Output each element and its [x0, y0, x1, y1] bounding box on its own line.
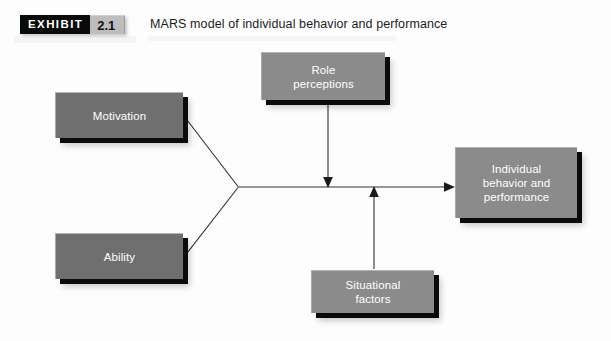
node-ability-line-1: Ability — [104, 250, 135, 264]
node-outcome-line-2: behavior and — [483, 176, 551, 190]
exhibit-label: EXHIBIT — [20, 15, 90, 34]
arrowhead-role-down — [323, 177, 333, 188]
scan-blemish — [148, 36, 396, 41]
node-motivation-line-1: Motivation — [93, 109, 146, 123]
node-situational-factors: Situational factors — [311, 270, 434, 313]
exhibit-title: MARS model of individual behavior and pe… — [150, 17, 447, 31]
exhibit-number: 2.1 — [90, 15, 125, 34]
node-individual-behavior-and-performance: Individual behavior and performance — [455, 147, 577, 218]
node-role-line-1: Role — [293, 63, 354, 77]
edge-ability-to-junction — [184, 188, 238, 258]
arrowhead-into-outcome — [444, 182, 455, 192]
exhibit-figure: EXHIBIT 2.1 MARS model of individual beh… — [0, 0, 611, 341]
node-motivation: Motivation — [55, 92, 183, 138]
node-outcome-line-3: performance — [483, 190, 551, 204]
edge-motivation-to-junction — [184, 116, 238, 187]
exhibit-tag: EXHIBIT 2.1 — [20, 15, 125, 34]
scan-blemish — [14, 36, 136, 43]
node-situational-line-1: Situational — [346, 278, 401, 292]
node-role-perceptions: Role perceptions — [261, 52, 385, 100]
node-role-line-2: perceptions — [293, 77, 354, 91]
node-outcome-line-1: Individual — [483, 162, 551, 176]
node-ability: Ability — [55, 233, 183, 279]
arrowhead-situational-up — [369, 186, 379, 197]
node-situational-line-2: factors — [346, 292, 401, 306]
